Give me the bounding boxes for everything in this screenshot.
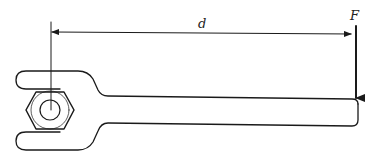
- hex-nut-outline: [26, 92, 74, 129]
- distance-dimension-line: [52, 32, 351, 34]
- force-label: F: [349, 8, 360, 23]
- wrench: [16, 71, 358, 150]
- wrench-lower-outline: [16, 104, 358, 150]
- bolt-circle: [40, 100, 60, 120]
- distance-label: d: [198, 16, 206, 31]
- wrench-torque-diagram: d F: [0, 0, 373, 159]
- nut-chamfer-circle: [31, 91, 69, 129]
- hex-nut: [26, 91, 74, 129]
